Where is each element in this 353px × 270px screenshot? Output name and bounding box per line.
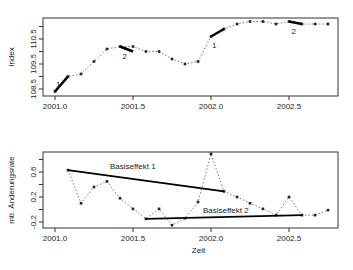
data-point xyxy=(236,23,239,26)
data-point xyxy=(106,180,109,183)
data-point xyxy=(119,197,122,200)
y-tick-label: -0.2 xyxy=(29,215,38,229)
data-point xyxy=(184,63,187,66)
segment-label: 2 xyxy=(291,27,296,36)
data-point xyxy=(80,202,83,205)
segment-label: 1 xyxy=(56,80,61,89)
data-point xyxy=(327,23,330,26)
data-point xyxy=(171,224,174,227)
data-point xyxy=(93,60,96,63)
data-point xyxy=(197,201,200,204)
data-point xyxy=(262,20,265,23)
basiseffekt-label: Basiseffekt 1 xyxy=(110,162,156,171)
data-point xyxy=(210,153,213,156)
x-tick-label: 2001.0 xyxy=(43,234,68,243)
x-tick-label: 2001.5 xyxy=(121,102,146,111)
x-tick-label: 2001.0 xyxy=(43,102,68,111)
y-tick-label: 109.5 xyxy=(29,53,38,74)
y-axis-label: mtl. Änderungsrate xyxy=(7,156,16,224)
highlight-segment xyxy=(289,22,302,25)
chart-figure: 2001.02001.52002.02002.5108.5109.5110.5I… xyxy=(0,0,353,270)
y-axis-label: Index xyxy=(7,47,16,67)
data-point xyxy=(158,208,161,211)
data-point xyxy=(171,58,174,61)
data-point xyxy=(314,214,317,217)
basiseffekt-label: Basiseffekt 2 xyxy=(203,206,249,215)
x-tick-label: 2002.5 xyxy=(277,102,302,111)
x-tick-label: 2002.5 xyxy=(277,234,302,243)
y-tick-label: 0.6 xyxy=(29,166,38,178)
data-point xyxy=(327,209,330,212)
segment-label: 1 xyxy=(212,41,217,50)
data-point xyxy=(249,20,252,23)
basiseffekt-line xyxy=(68,170,224,191)
data-point xyxy=(158,50,161,53)
y-tick-label: 0.2 xyxy=(29,191,38,203)
y-tick-label: 110.5 xyxy=(29,29,38,49)
data-point xyxy=(132,45,135,48)
data-point xyxy=(145,50,148,53)
basiseffekt-line xyxy=(146,215,302,219)
data-point xyxy=(93,186,96,189)
data-point xyxy=(314,23,317,26)
chart-canvas: 2001.02001.52002.02002.5108.5109.5110.5I… xyxy=(0,0,353,270)
data-point xyxy=(106,48,109,51)
data-point xyxy=(249,202,252,205)
data-point xyxy=(197,60,200,63)
data-point xyxy=(275,23,278,26)
x-tick-label: 2002.0 xyxy=(199,234,224,243)
highlight-segment xyxy=(211,29,224,37)
series-line xyxy=(55,22,328,92)
x-tick-label: 2001.5 xyxy=(121,234,146,243)
segment-label: 2 xyxy=(123,52,128,61)
plot-frame xyxy=(43,152,338,228)
data-point xyxy=(236,196,239,199)
data-point xyxy=(262,208,265,211)
x-axis-label: Zeit xyxy=(192,246,206,255)
data-point xyxy=(132,208,135,211)
data-point xyxy=(80,73,83,76)
x-tick-label: 2002.0 xyxy=(199,102,224,111)
data-point xyxy=(288,196,291,199)
y-tick-label: 108.5 xyxy=(29,78,38,99)
